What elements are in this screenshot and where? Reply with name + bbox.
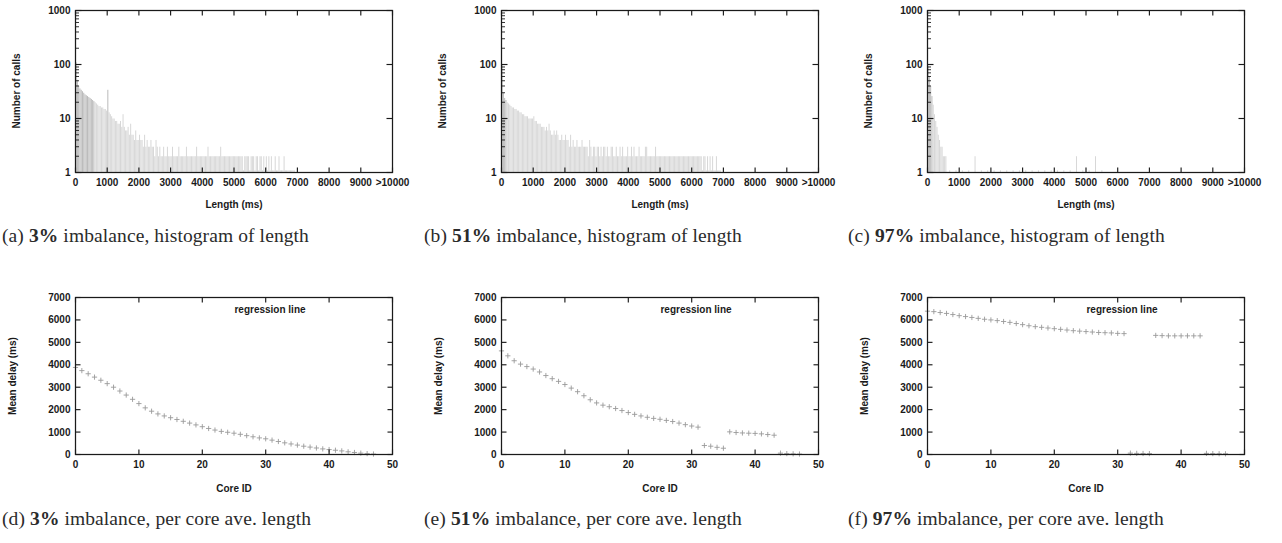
- caption-f-rest: imbalance, per core ave. length: [912, 508, 1164, 529]
- scatter-marker: [219, 429, 224, 434]
- scatter-marker: [187, 421, 192, 426]
- x-tick-label: 50: [387, 459, 399, 470]
- scatter-marker: [333, 448, 338, 453]
- x-tick-label: 6000: [255, 177, 278, 188]
- scatter-marker: [676, 421, 681, 426]
- scatter-marker: [200, 424, 205, 429]
- scatter-marker: [957, 313, 962, 318]
- panel-d-svg: 0102030405001000200030004000500060007000…: [0, 287, 430, 502]
- x-tick-label: 9000: [1202, 177, 1225, 188]
- y-tick-label: 1000: [474, 5, 497, 16]
- scatter-marker: [238, 432, 243, 437]
- panel-e-scatter: 0102030405001000200030004000500060007000…: [426, 287, 856, 502]
- scatter-marker: [212, 427, 217, 432]
- x-tick-label: 30: [1112, 459, 1124, 470]
- y-tick-label: 0: [65, 449, 71, 460]
- caption-e-percent: 51%: [451, 508, 490, 529]
- scatter-marker: [307, 444, 312, 449]
- panel-c-ylabel: Number of calls: [863, 53, 874, 128]
- scatter-marker: [613, 406, 618, 411]
- panel-e-ylabel: Mean delay (ms): [433, 337, 444, 415]
- scatter-marker: [588, 397, 593, 402]
- scatter-marker: [1166, 333, 1171, 338]
- scatter-marker: [1179, 333, 1184, 338]
- caption-d-rest: imbalance, per core ave. length: [59, 508, 311, 529]
- scatter-marker: [1045, 325, 1050, 330]
- y-tick-label: 0: [491, 449, 497, 460]
- caption-e-rest: imbalance, per core ave. length: [490, 508, 742, 529]
- y-tick-label: 7000: [48, 292, 71, 303]
- scatter-marker: [562, 382, 567, 387]
- y-tick-label: 7000: [474, 292, 497, 303]
- scatter-marker: [250, 434, 255, 439]
- x-tick-label: 6000: [681, 177, 704, 188]
- y-tick-label: 3000: [900, 382, 923, 393]
- panel-f-regression-label: regression line: [1086, 304, 1158, 315]
- scatter-marker: [1147, 451, 1152, 456]
- panel-d-xlabel: Core ID: [216, 483, 252, 494]
- scatter-marker: [963, 314, 968, 319]
- y-tick-label: 10: [911, 113, 923, 124]
- scatter-marker: [206, 426, 211, 431]
- x-tick-label: 5000: [1075, 177, 1098, 188]
- panel-f-data: [925, 309, 1228, 457]
- x-tick-label: 50: [1239, 459, 1251, 470]
- x-tick-label: 1000: [948, 177, 971, 188]
- scatter-marker: [944, 311, 949, 316]
- scatter-marker: [791, 451, 796, 456]
- scatter-marker: [733, 430, 738, 435]
- panel-f-scatter: 0102030405001000200030004000500060007000…: [852, 287, 1282, 502]
- caption-e-tag: (e): [424, 508, 446, 529]
- scatter-marker: [1198, 333, 1203, 338]
- panel-d-ylabel: Mean delay (ms): [7, 337, 18, 415]
- scatter-marker: [683, 422, 688, 427]
- x-tick-label: 5000: [223, 177, 246, 188]
- scatter-marker: [657, 417, 662, 422]
- x-tick-label: 4000: [191, 177, 214, 188]
- panel-d-regression-label: regression line: [234, 304, 306, 315]
- x-tick-label: 40: [324, 459, 336, 470]
- scatter-marker: [575, 389, 580, 394]
- scatter-marker: [143, 405, 148, 410]
- panel-e-data: [499, 348, 802, 456]
- scatter-marker: [86, 371, 91, 376]
- x-tick-label: 10: [985, 459, 997, 470]
- scatter-marker: [594, 400, 599, 405]
- panel-f-xlabel: Core ID: [1068, 483, 1104, 494]
- panel-f-frame: [928, 298, 1245, 455]
- scatter-marker: [753, 431, 758, 436]
- y-tick-label: 2000: [48, 404, 71, 415]
- scatter-marker: [765, 432, 770, 437]
- caption-c-rest: imbalance, histogram of length: [914, 225, 1165, 246]
- scatter-marker: [708, 444, 713, 449]
- caption-f-tag: (f): [848, 508, 868, 529]
- scatter-marker: [174, 417, 179, 422]
- panel-a-ylabel: Number of calls: [11, 53, 22, 128]
- scatter-marker: [98, 378, 103, 383]
- y-tick-label: 100: [480, 59, 497, 70]
- scatter-marker: [626, 410, 631, 415]
- y-tick-label: 7000: [900, 292, 923, 303]
- x-tick-label: >10000: [1228, 177, 1262, 188]
- panel-e-svg: 0102030405001000200030004000500060007000…: [426, 287, 856, 502]
- scatter-marker: [295, 442, 300, 447]
- scatter-marker: [92, 375, 97, 380]
- x-tick-label: 20: [623, 459, 635, 470]
- scatter-marker: [339, 448, 344, 453]
- y-tick-label: 1: [917, 167, 923, 178]
- x-tick-label: 0: [925, 177, 931, 188]
- scatter-marker: [1134, 451, 1139, 456]
- x-tick-label: 0: [73, 177, 79, 188]
- scatter-marker: [1077, 329, 1082, 334]
- x-tick-label: 10: [559, 459, 571, 470]
- caption-c-percent: 97%: [875, 225, 914, 246]
- scatter-marker: [689, 423, 694, 428]
- scatter-marker: [117, 388, 122, 393]
- panel-c-histogram: 0100020003000400050006000700080009000>10…: [852, 0, 1282, 215]
- y-tick-label: 100: [906, 59, 923, 70]
- x-tick-label: 0: [499, 459, 505, 470]
- scatter-marker: [79, 368, 84, 373]
- scatter-marker: [931, 309, 936, 314]
- scatter-marker: [651, 416, 656, 421]
- y-tick-label: 1000: [48, 5, 71, 16]
